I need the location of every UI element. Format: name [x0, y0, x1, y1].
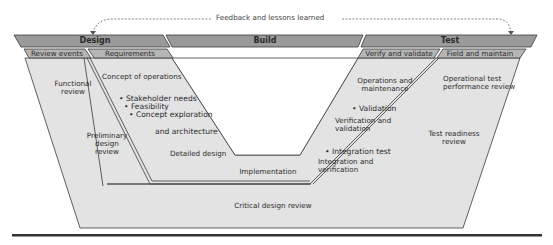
feedback-label: Feedback and lessons learned	[216, 14, 324, 22]
subphase-field-maintain: Field and maintain	[447, 50, 513, 58]
detailed-design: Detailed design	[170, 150, 226, 158]
operational-test-review: Operational test performance review	[443, 75, 515, 91]
test-readiness-review: Test readiness review	[428, 130, 479, 146]
functional-review: Functional review	[55, 80, 92, 96]
verification-validation: Verification and validation	[335, 117, 391, 133]
bullet-validation: • Validation	[352, 105, 396, 114]
and-architecture: and architecture	[155, 128, 218, 137]
phase-test: Test	[441, 37, 459, 46]
bottom-rule	[12, 234, 542, 237]
subphase-review-events: Review events	[31, 50, 83, 58]
operations-maintenance: Operations and maintenance	[357, 77, 412, 93]
phase-design: Design	[80, 37, 111, 46]
phase-build: Build	[253, 37, 276, 46]
bullet-concept-exploration: • Concept exploration	[129, 111, 213, 120]
arrowhead-right-icon	[508, 31, 514, 35]
subphase-requirements: Requirements	[105, 50, 155, 58]
feedback-arrow-right-line	[342, 19, 511, 33]
concept-of-operations: Concept of operations	[102, 73, 181, 81]
critical-design-review: Critical design review	[234, 202, 311, 210]
preliminary-design-review: Preliminary design review	[87, 132, 128, 156]
bullet-integration-test: • Integration test	[325, 148, 391, 157]
subphase-verify-validate: Verify and validate	[365, 50, 432, 58]
feedback-arrow	[93, 19, 212, 33]
implementation: Implementation	[239, 168, 296, 176]
integration-verification: Integration and verification	[318, 158, 373, 174]
arrowhead-left-icon	[90, 31, 96, 35]
